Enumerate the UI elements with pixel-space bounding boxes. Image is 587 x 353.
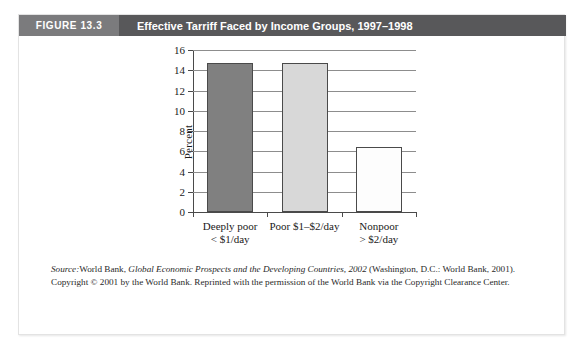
x-axis-tick (193, 212, 194, 217)
x-axis-category-label: Nonpoor> $2/day (319, 220, 439, 246)
source-work-title: Global Economic Prospects and the Develo… (128, 264, 367, 274)
y-axis-tick-label: 12 (174, 85, 185, 97)
y-axis-tick-label: 14 (174, 64, 185, 76)
y-axis-tick-label: 4 (180, 166, 186, 178)
y-axis-tick (188, 192, 193, 193)
figure-container: FIGURE 13.3 Effective Tarriff Faced by I… (18, 14, 565, 335)
chart-area: Percent 0246810121416 Deeply poor< $1/da… (19, 36, 566, 270)
y-axis-tick-label: 0 (180, 206, 186, 218)
figure-header: FIGURE 13.3 Effective Tarriff Faced by I… (19, 15, 566, 36)
y-axis-tick (188, 151, 193, 152)
y-axis-tick (188, 131, 193, 132)
y-axis-tick-label: 10 (174, 105, 185, 117)
source-prefix: Source: (51, 264, 79, 274)
plot-area: 0246810121416 Deeply poor< $1/dayPoor $1… (193, 50, 416, 212)
figure-number-badge: FIGURE 13.3 (19, 15, 119, 36)
bar (356, 147, 402, 212)
y-axis-tick (188, 172, 193, 173)
y-axis-tick (188, 50, 193, 51)
y-axis-tick-label: 16 (174, 44, 185, 56)
x-axis-tick (342, 212, 343, 217)
category-label-line1: Nonpoor (319, 220, 439, 233)
y-axis-tick-label: 6 (180, 145, 186, 157)
figure-title: Effective Tarriff Faced by Income Groups… (137, 20, 413, 32)
x-axis-tick (416, 212, 417, 217)
gridline (193, 50, 416, 51)
y-axis-tick (188, 70, 193, 71)
source-note: Source:World Bank, Global Economic Prosp… (51, 263, 535, 289)
source-part1: World Bank, (79, 264, 128, 274)
bar (282, 63, 328, 212)
bar (207, 63, 253, 212)
y-axis-tick (188, 111, 193, 112)
category-label-line2: > $2/day (319, 233, 439, 246)
x-axis-tick (267, 212, 268, 217)
y-axis-tick-label: 8 (180, 125, 186, 137)
y-axis-tick (188, 91, 193, 92)
category-label-line2: < $1/day (170, 233, 290, 246)
y-axis-tick-label: 2 (180, 186, 186, 198)
x-axis-line (193, 212, 416, 213)
